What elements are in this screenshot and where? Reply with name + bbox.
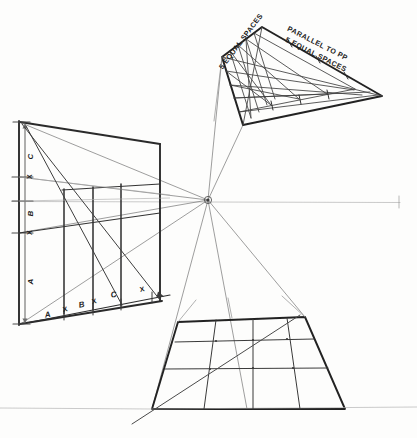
drawing-canvas: 5 EQUAL SPACES PARALLEL TO PP 5 EQUAL SP… — [0, 0, 417, 438]
lower-grid-diagonal — [132, 315, 300, 424]
upper-tilted-grid — [214, 27, 382, 125]
ray-to-upper-grid-left — [208, 57, 222, 200]
vertical-scale-ticks — [12, 122, 33, 324]
inner-box-top — [62, 184, 160, 190]
left-panel-top-edge — [20, 122, 160, 144]
lower-grid-guide-centre — [228, 298, 232, 318]
vanishing-rays — [19, 57, 305, 409]
inner-box-mid — [19, 213, 160, 233]
row-2 — [165, 368, 328, 369]
vertical-3 — [287, 318, 300, 409]
vertical-dimension-arrows — [22, 124, 27, 323]
row-1 — [175, 339, 314, 342]
row-faint-2 — [0, 408, 152, 409]
perspective-construction-svg — [0, 0, 417, 438]
ray-to-upper-grid-bottom — [208, 125, 243, 200]
ray-to-lower-grid-right — [208, 200, 305, 317]
lower-grid-rows — [165, 339, 328, 369]
guide-upper — [19, 177, 170, 195]
guide-lower — [19, 198, 170, 201]
ray-to-lower-grid-mid — [208, 200, 247, 409]
vertical-1 — [204, 320, 216, 409]
diagonal-secondary — [26, 126, 122, 305]
ground-measuring-line — [26, 295, 170, 323]
upper-grid-diagonals — [222, 27, 382, 125]
upper-grid-tail — [214, 57, 222, 121]
ray-to-left-mid — [19, 200, 208, 233]
lower-perspective-grid — [0, 296, 417, 424]
lower-grid-verticals — [204, 318, 300, 409]
left-panel-diagonals — [22, 124, 160, 305]
ground-line-ticks — [64, 292, 152, 320]
lower-grid-guide-right — [282, 296, 305, 317]
